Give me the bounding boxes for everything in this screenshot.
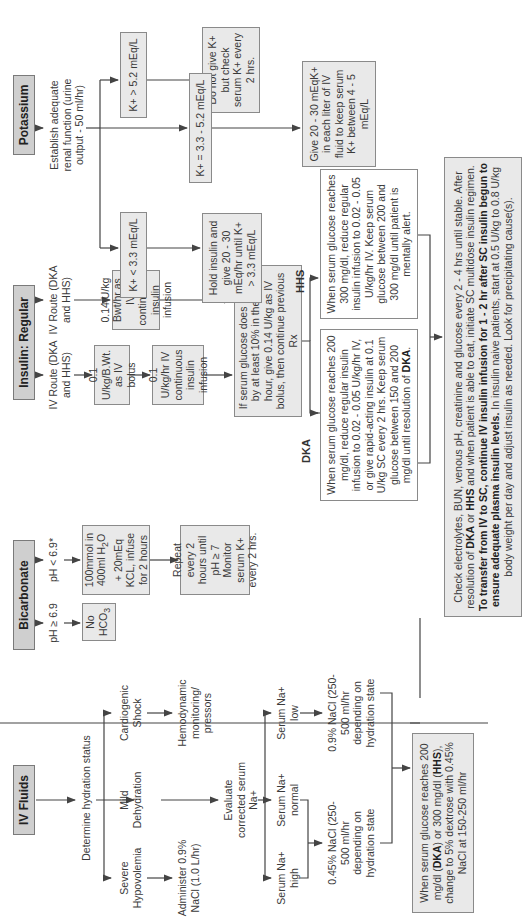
bicarb-infusion-box: 100mmol in 400ml H2O + 20mEq KCL, infuse… [82,525,150,595]
sodium-high-text: Serum Na+ high [275,848,300,908]
determine-hydration-text: Determine hydration status [80,723,93,873]
mild-dehydration-text: Mild Dehydration [118,765,143,835]
k-low-box: K+ < 3.3 mEq/L [120,212,147,298]
cardiogenic-shock-text: Cardiogenic Shock [118,678,143,748]
give-k-box: Give 20 - 30 mEqK+ in each liter of IV f… [302,61,376,167]
normal-saline-text: 0.9% NaCl (250-500 ml/hr depending on hy… [326,668,376,758]
flowchart-rotated: IV Fluids Determine hydration status Sev… [0,0,528,923]
hhs-glucose-box: When serum glucose reaches 300 mg/dl, re… [320,169,418,319]
iv-route-2-text: IV Route (DKA and HHS) [47,257,72,343]
k-mid-box: K+ = 3.3 - 5.2 mEq/L [189,73,212,183]
dka-glucose-box: When serum glucose reaches 200 mg/dl, re… [320,329,418,501]
hhs-label: HHS [294,270,306,293]
iv-route-1-text: IV Route (DKA and HHS) [47,332,72,418]
hold-insulin-box: Hold insulin and give 20 - 30 mEq/hr unt… [202,213,262,303]
sodium-low-text: Serum Na+ low [275,683,300,743]
half-saline-text: 0.45% NaCl (250-500 ml/hr depending on h… [326,798,376,888]
sodium-normal-text: Serum Na+ normal [275,770,300,830]
insulin-infusion-box: 0.1 U/kg/hr IV continuous insulin infusi… [152,345,204,405]
ph-low-text: pH < 6.9* [47,530,60,590]
evaluate-sodium-text: Evaluate corrected serum Na+ [222,757,260,843]
administer-saline-text: Administer 0.9% NaCl (1.0 L/hr) [176,838,201,918]
insulin-header: Insulin: Regular [13,285,35,400]
k-high-box: K+ > 5.2 mEq/L [120,32,147,118]
bicarbonate-header: Bicarbonate [13,540,35,650]
hemodynamic-monitoring-text: Hemodynamic monitoring/ pressors [176,673,214,753]
dka-label: DKA [300,439,312,463]
iv-fluids-header: IV Fluids [13,765,35,835]
renal-function-text: Establish adequate renal function (urine… [48,77,86,173]
ph-high-text: pH ≥ 6.9 [47,593,60,653]
dextrose-change-box: When serum glucose reaches 200 mg/dl (DK… [412,733,474,913]
bicarb-repeat-box: Repeat every 2 hours until pH ≥ 7 Monito… [180,525,250,595]
final-check-box: Check electrolytes, BUN, venous pH, crea… [444,157,522,617]
potassium-header: Potassium [13,75,35,155]
no-hco3-box: No HCO3 [82,603,116,641]
insulin-bolus-box: 0.1 U/kg/B.Wt. as IV bolus [94,345,130,405]
severe-hypovolemia-text: Severe Hypovolemia [118,843,143,913]
